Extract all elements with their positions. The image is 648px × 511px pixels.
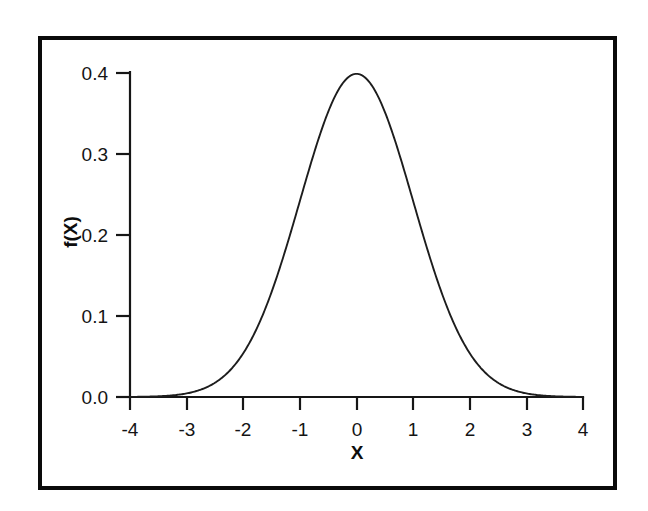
y-tick-label-0.1: 0.1 — [60, 307, 108, 326]
x-tick-label-1: 1 — [408, 420, 419, 439]
figure-root: 0.4 0.3 0.2 0.1 0.0 -4 -3 -2 -1 0 1 2 3 … — [0, 0, 648, 511]
x-tick-label-4: 4 — [578, 420, 589, 439]
x-tick-label--4: -4 — [122, 420, 139, 439]
x-tick-label--3: -3 — [179, 420, 196, 439]
y-tick-label-0.0: 0.0 — [60, 388, 108, 407]
y-tick-label-0.4: 0.4 — [60, 64, 108, 83]
y-axis-title: f(X) — [61, 216, 80, 248]
x-tick-label-0: 0 — [352, 420, 363, 439]
x-tick-label-2: 2 — [465, 420, 476, 439]
x-tick-label--1: -1 — [292, 420, 309, 439]
x-tick-label--2: -2 — [235, 420, 252, 439]
x-tick-label-3: 3 — [522, 420, 533, 439]
y-tick-label-0.3: 0.3 — [60, 145, 108, 164]
x-axis-title: X — [351, 443, 364, 462]
